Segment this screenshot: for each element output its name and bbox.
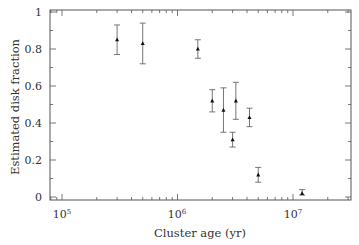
data-point xyxy=(233,82,239,119)
data-point xyxy=(209,90,215,112)
data-point xyxy=(195,40,201,59)
triangle-marker-icon xyxy=(221,108,225,112)
triangle-marker-icon xyxy=(234,99,238,103)
x-tick-label-1e6: 106 xyxy=(168,208,187,221)
x-tick-label-1e7: 107 xyxy=(284,208,302,221)
plot-frame xyxy=(50,10,351,200)
y-axis-title: Estimated disk fraction xyxy=(8,38,22,175)
y-tick-label: 1 xyxy=(35,6,42,19)
data-point xyxy=(114,25,120,55)
triangle-marker-icon xyxy=(196,47,200,51)
y-tick-label: 0.2 xyxy=(25,154,43,167)
x-axis-ticks xyxy=(51,10,348,200)
data-points xyxy=(114,23,305,195)
x-axis-title: Cluster age (yr) xyxy=(154,226,246,240)
x-tick-labels: 105 106 107 xyxy=(53,208,302,221)
plot-border xyxy=(50,10,351,200)
y-tick-label: 0.8 xyxy=(25,43,43,56)
data-point xyxy=(255,167,261,182)
triangle-marker-icon xyxy=(210,99,214,103)
triangle-marker-icon xyxy=(141,41,145,45)
y-tick-labels: 00.20.40.60.8 xyxy=(25,43,43,204)
triangle-marker-icon xyxy=(247,115,251,119)
triangle-marker-icon xyxy=(300,191,304,195)
triangle-marker-icon xyxy=(256,173,260,177)
data-point xyxy=(220,88,226,132)
y-tick-label: 0.6 xyxy=(25,80,43,93)
data-point xyxy=(230,132,236,147)
triangle-marker-icon xyxy=(231,137,235,141)
triangle-marker-icon xyxy=(115,38,119,42)
y-tick-label: 0.4 xyxy=(25,117,43,130)
x-tick-label-1e5: 105 xyxy=(53,208,71,221)
y-tick-label: 0 xyxy=(35,191,42,204)
data-point xyxy=(246,108,252,127)
data-point xyxy=(299,190,305,196)
data-point xyxy=(140,23,146,64)
disk-fraction-chart: 1 105 106 107 00.20.40.60.8 Cluster age … xyxy=(0,0,359,245)
